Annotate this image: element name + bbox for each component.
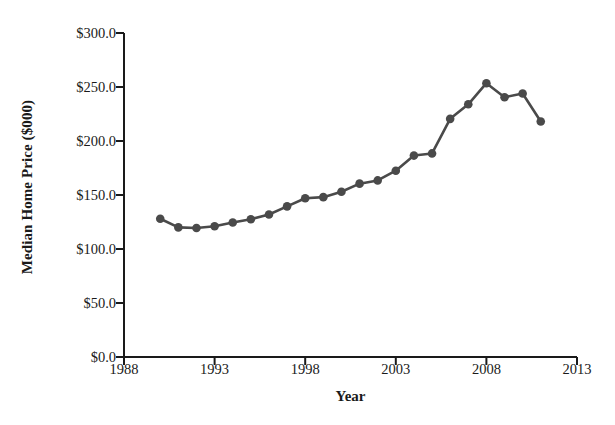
- data-point-marker: [536, 117, 545, 126]
- axis-lines: [124, 33, 577, 357]
- series-line: [160, 83, 541, 228]
- data-point-marker: [355, 179, 364, 188]
- x-axis-title: Year: [124, 388, 577, 405]
- data-point-marker: [392, 166, 401, 175]
- data-point-marker: [210, 222, 219, 231]
- data-point-marker: [464, 100, 473, 109]
- data-point-marker: [482, 79, 491, 88]
- data-point-marker: [428, 149, 437, 158]
- data-point-marker: [174, 223, 183, 232]
- data-point-marker: [373, 176, 382, 185]
- series-polyline: [160, 83, 541, 228]
- data-point-marker: [500, 93, 509, 102]
- data-point-marker: [337, 187, 346, 196]
- data-point-marker: [283, 202, 292, 211]
- data-point-marker: [228, 218, 237, 227]
- data-point-marker: [446, 115, 455, 124]
- y-axis-ticks: [116, 33, 124, 357]
- data-point-marker: [410, 151, 419, 160]
- data-point-marker: [518, 89, 527, 98]
- series-markers: [156, 79, 545, 232]
- data-point-marker: [192, 224, 201, 233]
- data-point-marker: [265, 210, 274, 219]
- chart-container: Median Home Price ($000) $0.0$50.0$100.0…: [0, 0, 615, 425]
- data-point-marker: [156, 214, 165, 223]
- data-point-marker: [247, 215, 256, 224]
- data-point-marker: [319, 193, 328, 202]
- plot-area: [0, 0, 615, 425]
- x-axis-ticks: [124, 357, 577, 365]
- data-point-marker: [301, 194, 310, 203]
